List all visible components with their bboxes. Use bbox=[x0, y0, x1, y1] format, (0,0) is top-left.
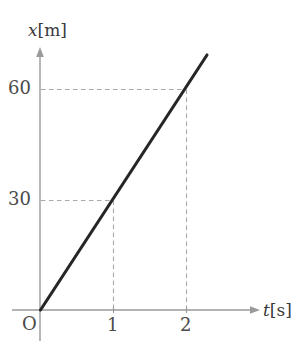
x-axis-unit: [s] bbox=[270, 300, 292, 320]
data-line-x-of-t bbox=[41, 55, 208, 310]
origin-label: O bbox=[22, 313, 37, 334]
y-axis-arrowhead bbox=[36, 47, 44, 57]
x-axis-arrowhead bbox=[250, 306, 260, 314]
y-axis-unit: [m] bbox=[38, 20, 67, 40]
y-tick-label-60: 60 bbox=[8, 77, 31, 98]
y-axis-label: x[m] bbox=[28, 20, 67, 40]
chart-figure: x[m] t[s] O 60 30 1 2 bbox=[0, 0, 300, 341]
y-axis bbox=[36, 47, 44, 341]
y-tick-label-30: 30 bbox=[8, 188, 31, 209]
x-tick-label-2: 2 bbox=[180, 314, 191, 335]
x-tick-label-1: 1 bbox=[107, 314, 118, 335]
y-axis-variable: x bbox=[28, 20, 38, 40]
x-axis-label: t[s] bbox=[263, 300, 292, 320]
position-time-plot bbox=[0, 0, 300, 341]
x-axis-variable: t bbox=[263, 300, 270, 320]
x-axis bbox=[12, 306, 260, 314]
